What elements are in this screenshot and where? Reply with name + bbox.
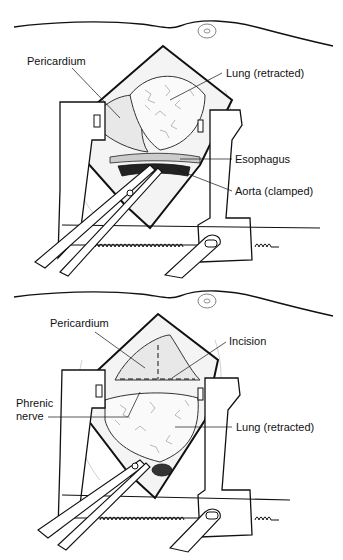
label-phrenic-nerve-line2: nerve [16,410,44,422]
label-aorta-clamped: Aorta (clamped) [235,185,313,197]
label-lung-retracted: Lung (retracted) [226,67,304,79]
label-incision: Incision [229,335,266,347]
label-pericardium: Pericardium [50,317,109,329]
surgical-illustration-top [0,0,343,280]
top-panel: Pericardium Lung (retracted) Esophagus A… [0,0,343,280]
label-pericardium: Pericardium [27,55,86,67]
bottom-panel: Pericardium Incision Phrenic nerve Lung … [0,280,343,560]
label-esophagus: Esophagus [235,153,290,165]
label-lung-retracted: Lung (retracted) [236,421,314,433]
label-phrenic-nerve-line1: Phrenic [16,397,53,409]
